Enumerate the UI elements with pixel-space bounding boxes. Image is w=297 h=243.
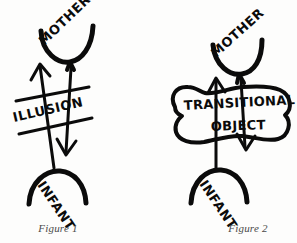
figure-2-caption: Figure 2 <box>174 222 297 234</box>
mother-label-figure-2: MOTHER <box>208 5 267 60</box>
figure-1-caption: Figure 1 <box>0 222 132 234</box>
object-label-figure-2: OBJECT <box>211 117 266 134</box>
figure-1-panel: MOTHER ILLUSION INFANT Figure 1 <box>0 0 148 243</box>
figure-1-drawing: MOTHER ILLUSION INFANT <box>0 0 148 243</box>
mother-label-figure-1: MOTHER <box>36 0 94 48</box>
figure-sheet: MOTHER ILLUSION INFANT Figure 1 <box>0 0 297 243</box>
figure-2-panel: TRANSITIONAL OBJECT MOTHER INFANT Figure… <box>149 0 297 243</box>
transitional-label-figure-2: TRANSITIONAL <box>183 92 295 113</box>
figure-2-drawing: TRANSITIONAL OBJECT MOTHER INFANT <box>149 0 297 243</box>
